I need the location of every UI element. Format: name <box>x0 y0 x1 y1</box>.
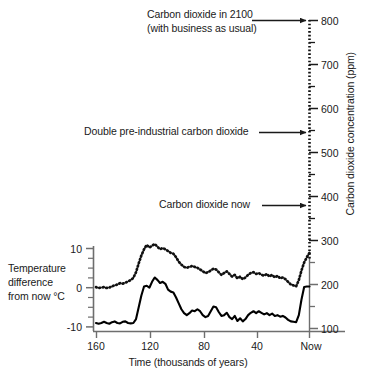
left-axis-title: Temperature difference from now °C <box>8 261 86 303</box>
right-tick-label-800: 800 <box>321 15 339 27</box>
right-tick-label-600: 600 <box>321 103 339 115</box>
x-tick-label-120: 120 <box>141 340 159 352</box>
annotation-carbon-dioxide-now: Carbon dioxide now <box>159 198 250 212</box>
axes-lines <box>93 20 345 332</box>
right-tick-label-700: 700 <box>321 59 339 71</box>
x-tick-label-160: 160 <box>87 340 105 352</box>
x-tick-label-40: 40 <box>251 340 263 352</box>
x-tick-label-now: Now <box>300 340 321 352</box>
chart-figure: 10 0 -10 800 700 600 500 40 <box>0 0 376 384</box>
annotation-carbon-dioxide-2100-line1: Carbon dioxide in 2100 <box>147 8 257 22</box>
right-axis-title: Carbon dioxide concentration (ppm) <box>344 52 356 216</box>
right-tick-label-400: 400 <box>321 191 339 203</box>
right-tick-label-100: 100 <box>321 323 339 335</box>
left-tick-label-10: 10 <box>70 243 82 255</box>
left-tick-label-minus10: -10 <box>67 321 82 333</box>
series-temperature <box>96 278 310 324</box>
series-carbon-dioxide <box>96 244 310 288</box>
annotation-carbon-dioxide-2100: Carbon dioxide in 2100 (with business as… <box>147 8 257 35</box>
right-axis-tick-labels: 800 700 600 500 400 300 200 100 <box>321 15 339 335</box>
right-axis-ticks <box>309 21 318 329</box>
right-tick-label-200: 200 <box>321 279 339 291</box>
annotation-carbon-dioxide-2100-line2: (with business as usual) <box>147 22 257 36</box>
right-tick-label-300: 300 <box>321 235 339 247</box>
chart-canvas: 10 0 -10 800 700 600 500 40 <box>0 0 376 384</box>
annotation-arrows <box>252 21 306 206</box>
left-axis-title-line1: Temperature <box>8 261 86 275</box>
annotation-double-pre-industrial: Double pre-industrial carbon dioxide <box>84 125 249 139</box>
left-axis-ticks <box>86 249 94 327</box>
x-axis-title: Time (thousands of years) <box>0 356 376 368</box>
left-axis-title-line2: difference <box>8 275 86 289</box>
right-tick-label-500: 500 <box>321 147 339 159</box>
left-axis-title-line3: from now °C <box>8 289 86 303</box>
x-tick-label-80: 80 <box>198 340 210 352</box>
x-axis-tick-labels: 160 120 80 40 Now <box>87 340 322 352</box>
